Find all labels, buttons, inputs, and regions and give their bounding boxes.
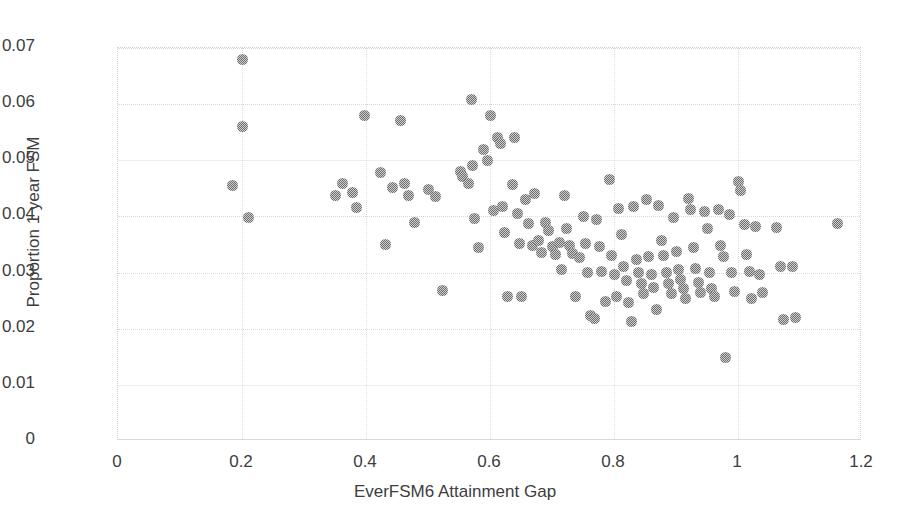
data-point-marker (690, 263, 701, 274)
data-point-marker (347, 187, 358, 198)
data-point-marker (589, 313, 600, 324)
data-point-marker (688, 242, 699, 253)
y-axis-tick-text: 0.04 (2, 204, 35, 224)
data-point-marker (237, 121, 248, 132)
data-point-marker (473, 242, 484, 253)
gridline-vertical (614, 48, 615, 439)
data-point-marker (704, 267, 715, 278)
data-point-marker (631, 254, 642, 265)
data-point-marker (514, 238, 525, 249)
data-point-marker (485, 110, 496, 121)
data-point-marker (237, 54, 248, 65)
data-point-marker (582, 267, 593, 278)
gridline-horizontal (118, 216, 860, 217)
data-point-marker (695, 287, 706, 298)
data-point-marker (683, 193, 694, 204)
data-point-marker (757, 287, 768, 298)
data-point-marker (621, 275, 632, 286)
data-point-marker (437, 285, 448, 296)
data-point-marker (403, 190, 414, 201)
data-point-marker (746, 293, 757, 304)
data-point-marker (741, 249, 752, 260)
gridline-vertical (490, 48, 491, 439)
data-point-marker (623, 297, 634, 308)
data-point-marker (735, 185, 746, 196)
data-point-marker (467, 160, 478, 171)
data-point-marker (653, 200, 664, 211)
data-point-marker (750, 221, 761, 232)
data-point-marker (497, 201, 508, 212)
data-point-marker (578, 211, 589, 222)
data-point-marker (478, 144, 489, 155)
data-point-marker (561, 223, 572, 234)
data-point-marker (351, 202, 362, 213)
y-axis-tick-text: 0.01 (2, 373, 35, 393)
data-point-marker (729, 286, 740, 297)
data-point-marker (512, 208, 523, 219)
data-point-marker (507, 179, 518, 190)
data-point-marker (604, 174, 615, 185)
data-point-marker (778, 314, 789, 325)
data-point-marker (613, 203, 624, 214)
data-point-marker (618, 261, 629, 272)
data-point-marker (638, 288, 649, 299)
data-point-marker (337, 178, 348, 189)
data-point-marker (646, 269, 657, 280)
x-axis-tick-label: 1 (732, 452, 741, 472)
gridline-vertical (738, 48, 739, 439)
data-point-marker (709, 291, 720, 302)
data-point-marker (550, 249, 561, 260)
data-point-marker (726, 267, 737, 278)
data-point-marker (609, 269, 620, 280)
data-point-marker (656, 235, 667, 246)
x-axis-tick-label: 0.4 (353, 452, 377, 472)
data-point-marker (713, 204, 724, 215)
gridline-horizontal (118, 104, 860, 105)
data-point-marker (330, 190, 341, 201)
data-point-marker (658, 250, 669, 261)
data-point-marker (380, 239, 391, 250)
data-point-marker (678, 283, 689, 294)
y-axis-tick-text: 0.05 (2, 148, 35, 168)
data-point-marker (648, 282, 659, 293)
data-point-marker (771, 222, 782, 233)
data-point-marker (633, 267, 644, 278)
x-axis-tick-label: 0.6 (477, 452, 501, 472)
data-point-marker (775, 261, 786, 272)
data-point-marker (715, 240, 726, 251)
scatter-chart: Proportion 1 year FSM EverFSM6 Attainmen… (0, 0, 910, 525)
data-point-marker (666, 288, 677, 299)
data-point-marker (739, 219, 750, 230)
plot-area (117, 47, 861, 440)
y-axis-tick-text: 0.06 (2, 92, 35, 112)
data-point-marker (466, 94, 477, 105)
data-point-marker (673, 264, 684, 275)
data-point-marker (643, 251, 654, 262)
data-point-marker (754, 269, 765, 280)
data-point-marker (536, 247, 547, 258)
data-point-marker (482, 155, 493, 166)
gridline-horizontal (118, 48, 860, 49)
data-point-marker (832, 218, 843, 229)
data-point-marker (720, 352, 731, 363)
data-point-marker (724, 209, 735, 220)
data-point-marker (787, 261, 798, 272)
data-point-marker (499, 227, 510, 238)
data-point-marker (606, 250, 617, 261)
gridline-vertical (242, 48, 243, 439)
data-point-marker (570, 291, 581, 302)
data-point-marker (661, 267, 672, 278)
data-point-marker (636, 278, 647, 289)
y-axis-tick-text: 0.03 (2, 261, 35, 281)
y-axis-tick-text: 0.07 (2, 36, 35, 56)
data-point-marker (502, 291, 513, 302)
gridline-horizontal (118, 329, 860, 330)
x-axis-title: EverFSM6 Attainment Gap (0, 482, 910, 502)
y-axis-tick-text: 0.02 (2, 317, 35, 337)
data-point-marker (399, 178, 410, 189)
data-point-marker (628, 201, 639, 212)
data-point-marker (680, 293, 691, 304)
x-axis-tick-label: 0 (112, 452, 121, 472)
data-point-marker (387, 182, 398, 193)
data-point-marker (718, 251, 729, 262)
